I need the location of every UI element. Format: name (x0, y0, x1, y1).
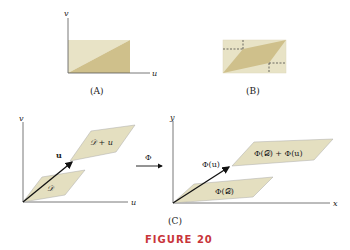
panel-b: (B) (223, 40, 286, 96)
panel-a: v u (A) (64, 9, 157, 96)
map-label-phi: Φ (145, 153, 152, 162)
vector-phi-u-label: Φ(u) (202, 160, 220, 169)
axis-label-v: v (19, 114, 24, 123)
panel-c-right: y x Φ(u) Φ(𝒟) Φ(𝒟) + Φ(u) (169, 113, 338, 208)
region-phi-d-label: Φ(𝒟) (215, 187, 234, 196)
axis-label-v: v (64, 9, 69, 18)
region-phi-d-plus-phi-u-label: Φ(𝒟) + Φ(u) (254, 149, 303, 158)
region-d-plus-u-label: 𝒟 + u (90, 138, 113, 147)
panel-label-c: (C) (168, 216, 182, 226)
map-phi: Φ (136, 153, 162, 166)
vector-u-label: u (56, 150, 62, 160)
panel-c-left: v u u 𝒟 𝒟 + u (19, 114, 136, 207)
panel-label-b: (B) (246, 86, 260, 96)
region-d (23, 170, 85, 202)
axis-label-y: y (169, 113, 175, 122)
axis-label-u: u (131, 198, 136, 207)
figure-canvas: v u (A) (B) v u u 𝒟 𝒟 + u Φ y x (0, 0, 350, 250)
figure-caption: FIGURE 20 (145, 234, 213, 245)
panel-label-a: (A) (90, 86, 104, 96)
axis-label-x: x (333, 199, 338, 208)
axis-label-u: u (152, 69, 157, 78)
